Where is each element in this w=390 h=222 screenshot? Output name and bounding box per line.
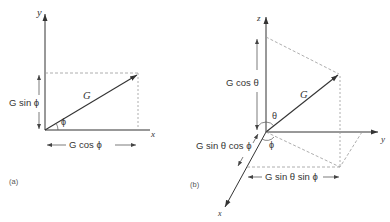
b-x-comp-arrow-down [238, 157, 243, 166]
a-angle-arc [57, 124, 59, 130]
b-dashed-z-to-tip [266, 37, 339, 74]
b-x-component-label: G sin θ cos ϕ [196, 141, 251, 151]
b-theta-label: θ [272, 112, 277, 121]
b-vector-g [266, 75, 338, 132]
b-y-component-label: G sin θ sin ϕ [265, 172, 318, 182]
a-vector-label: G [83, 91, 91, 102]
a-cos-component-label: G cos ϕ [69, 140, 102, 150]
b-y-axis-label: y [381, 135, 385, 144]
a-vector-g [45, 75, 137, 130]
b-caption: (b) [190, 181, 199, 189]
vector-components-figure: y x G ϕ G sin ϕ G cos ϕ (a) z y x G θ ϕ … [0, 0, 390, 222]
panel-a-graphics [39, 14, 150, 145]
b-vector-label: G [300, 90, 308, 101]
b-z-axis-label: z [257, 14, 261, 23]
a-y-axis-label: y [37, 8, 42, 19]
a-angle-label: ϕ [61, 118, 66, 127]
b-z-component-label: G cos θ [226, 78, 259, 88]
b-theta-arc-left [258, 122, 266, 126]
a-sin-component-label: G sin ϕ [9, 98, 39, 108]
b-phi-label: ϕ [269, 141, 274, 150]
a-caption: (a) [9, 178, 18, 186]
b-x-comp-arrow-up [253, 134, 258, 143]
a-x-axis-label: x [151, 130, 155, 139]
b-dashed-y-to-proj [340, 132, 362, 167]
b-theta-arc [266, 122, 274, 126]
b-dashed-origin-to-proj [266, 132, 340, 167]
b-x-axis-label: x [218, 210, 222, 218]
